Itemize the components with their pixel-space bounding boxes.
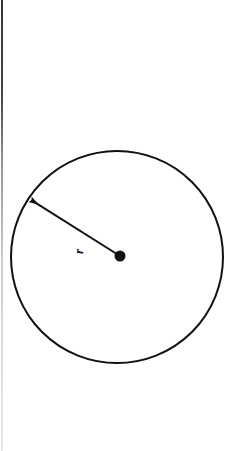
radius-label: r xyxy=(72,249,85,254)
diagram-canvas xyxy=(0,0,238,451)
circle-radius-figure: r xyxy=(0,0,238,451)
center-point-dot xyxy=(115,251,126,262)
radius-arrow xyxy=(31,200,120,256)
